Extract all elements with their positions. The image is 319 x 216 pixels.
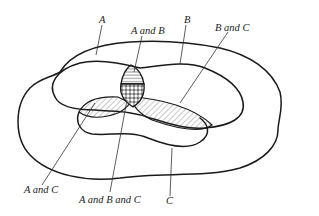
label-a-and-b-and-c: A and B and C [78, 194, 142, 205]
leader-a-and-c [42, 103, 95, 185]
label-a-and-c: A and C [23, 184, 59, 195]
diagram-canvas: A A and B B B and C A and C A and B and … [0, 0, 319, 216]
region-b-and-c [130, 97, 212, 129]
label-b-and-c: B and C [215, 22, 250, 33]
leader-a [96, 25, 102, 55]
leader-b [180, 25, 186, 64]
label-a-and-b: A and B [130, 25, 165, 36]
label-a: A [98, 14, 106, 25]
label-b: B [184, 14, 191, 25]
venn-diagram: A A and B B B and C A and C A and B and … [0, 0, 319, 216]
leader-c [170, 148, 172, 196]
region-a-and-c [79, 97, 130, 118]
label-c: C [166, 195, 174, 206]
